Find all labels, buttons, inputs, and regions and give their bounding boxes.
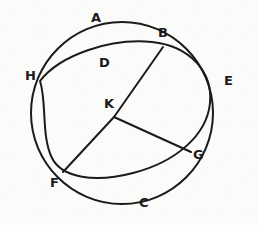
label-point-b: B: [158, 26, 168, 39]
label-point-c: C: [139, 196, 149, 209]
label-point-a: A: [91, 11, 101, 24]
segment-k-g: [114, 117, 191, 152]
label-point-f: F: [50, 176, 59, 189]
circle-tilted: [40, 41, 210, 178]
label-point-h: H: [25, 69, 36, 82]
label-point-k: K: [104, 97, 114, 110]
geometry-figure: [0, 0, 258, 225]
label-point-e: E: [224, 74, 233, 87]
label-point-g: G: [193, 148, 204, 161]
diagram-canvas: A B D E H K G F C: [0, 0, 258, 225]
label-point-d: D: [99, 56, 110, 69]
